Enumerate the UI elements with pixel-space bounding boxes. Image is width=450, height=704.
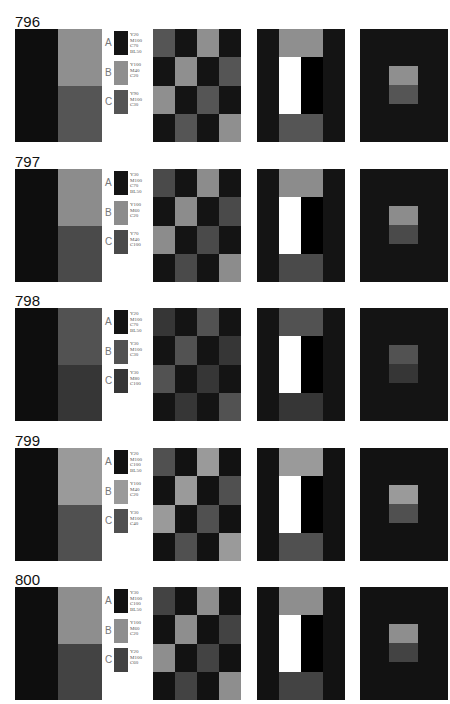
color-b-field	[58, 308, 102, 365]
swatch-letter-b: B	[105, 207, 112, 218]
black-reference-strip	[15, 587, 58, 700]
checker-cell-a	[219, 226, 241, 254]
checker-cell-a	[153, 57, 175, 85]
checker-cell-b	[153, 644, 175, 672]
color-swatch-c	[114, 90, 128, 114]
window-white-pane	[279, 476, 301, 533]
swatch-letter-c: C	[105, 654, 112, 665]
checker-cell-a	[153, 476, 175, 504]
swatch-letter-b: B	[105, 625, 112, 636]
swatch-spec-a: Y20 M100 C70 BL50	[130, 311, 142, 333]
swatch-spec-c: Y90 M100 C30	[130, 91, 142, 108]
checker-cell-a	[219, 365, 241, 393]
checker-cell-a	[197, 672, 219, 700]
checker-cell-c	[219, 57, 241, 85]
black-reference-strip	[15, 308, 58, 421]
window-black-pane	[301, 57, 323, 114]
checker-cell-b	[175, 57, 197, 85]
checker-cell-a	[153, 336, 175, 364]
surround-panel	[360, 308, 448, 421]
plate-block: 798AY20 M100 C70 BL50BY30 M100 C30CY30 M…	[0, 308, 450, 448]
swatch-letter-b: B	[105, 486, 112, 497]
checker-cell-c	[175, 114, 197, 142]
window-top-band	[279, 448, 323, 476]
checker-cell-a	[175, 169, 197, 197]
window-black-pane	[301, 197, 323, 254]
window-panel	[257, 29, 345, 142]
swatch-spec-b: Y100 M60 C20	[130, 620, 141, 637]
checker-cell-c	[175, 254, 197, 282]
checker-cell-a	[175, 29, 197, 57]
inner-square-c	[389, 504, 418, 523]
window-panel	[257, 169, 345, 282]
swatch-spec-b: Y100 M40 C20	[130, 481, 141, 498]
checker-cell-a	[175, 365, 197, 393]
checker-cell-b	[219, 533, 241, 561]
swatch-spec-a: Y20 M100 C100 BL50	[130, 451, 142, 473]
checker-cell-c	[219, 336, 241, 364]
checker-cell-a	[219, 86, 241, 114]
checker-cell-a	[197, 197, 219, 225]
inner-square-b	[389, 624, 418, 643]
color-b-field	[58, 29, 102, 86]
checker-cell-b	[175, 197, 197, 225]
checker-cell-b	[197, 169, 219, 197]
color-swatch-c	[114, 509, 128, 533]
color-swatch-a	[114, 450, 128, 474]
color-swatch-b	[114, 201, 128, 225]
plate-number: 800	[15, 572, 40, 587]
checker-cell-a	[175, 587, 197, 615]
color-c-field	[58, 644, 102, 700]
swatch-letter-c: C	[105, 236, 112, 247]
color-b-field	[58, 587, 102, 644]
checker-cell-b	[219, 254, 241, 282]
checker-cell-a	[153, 533, 175, 561]
color-c-field	[58, 226, 102, 282]
checker-cell-b	[219, 393, 241, 421]
swatch-letter-c: C	[105, 375, 112, 386]
checker-cell-b	[197, 29, 219, 57]
checker-cell-c	[219, 197, 241, 225]
checker-cell-a	[197, 615, 219, 643]
checker-cell-b	[153, 86, 175, 114]
plate-number: 798	[15, 293, 40, 308]
window-left-column	[257, 587, 279, 700]
window-white-pane	[279, 336, 301, 393]
black-reference-strip	[15, 29, 58, 142]
checker-cell-b	[175, 615, 197, 643]
window-bottom-band	[279, 672, 323, 700]
swatch-spec-c: Y30 M100 C40	[130, 510, 142, 527]
checker-cell-a	[175, 308, 197, 336]
window-bottom-band	[279, 254, 323, 282]
window-black-pane	[301, 336, 323, 393]
checker-cell-a	[153, 197, 175, 225]
checker-cell-a	[219, 29, 241, 57]
checker-cell-c	[153, 29, 175, 57]
checker-cell-c	[175, 393, 197, 421]
window-right-column	[323, 29, 345, 142]
checker-cell-a	[197, 254, 219, 282]
checker-cell-a	[175, 448, 197, 476]
plate-block: 800AY30 M100 C100 BL50BY100 M60 C20CY20 …	[0, 587, 450, 704]
color-swatch-b	[114, 340, 128, 364]
inner-square-b	[389, 206, 418, 225]
checker-cell-b	[219, 672, 241, 700]
window-top-band	[279, 29, 323, 57]
color-swatch-b	[114, 619, 128, 643]
window-black-pane	[301, 476, 323, 533]
checker-cell-a	[219, 644, 241, 672]
color-c-field	[58, 505, 102, 561]
checker-cell-b	[197, 587, 219, 615]
color-c-field	[58, 86, 102, 142]
window-top-band	[279, 169, 323, 197]
window-black-pane	[301, 615, 323, 672]
swatch-spec-a: Y30 M100 C100 BL50	[130, 590, 142, 612]
window-left-column	[257, 29, 279, 142]
swatch-letter-b: B	[105, 67, 112, 78]
swatch-spec-b: Y100 M40 C20	[130, 62, 141, 79]
checker-cell-c	[153, 169, 175, 197]
checker-cell-b	[153, 226, 175, 254]
plate-block: 799AY20 M100 C100 BL50BY100 M40 C20CY30 …	[0, 448, 450, 588]
inner-square-b	[389, 66, 418, 85]
window-panel	[257, 448, 345, 561]
